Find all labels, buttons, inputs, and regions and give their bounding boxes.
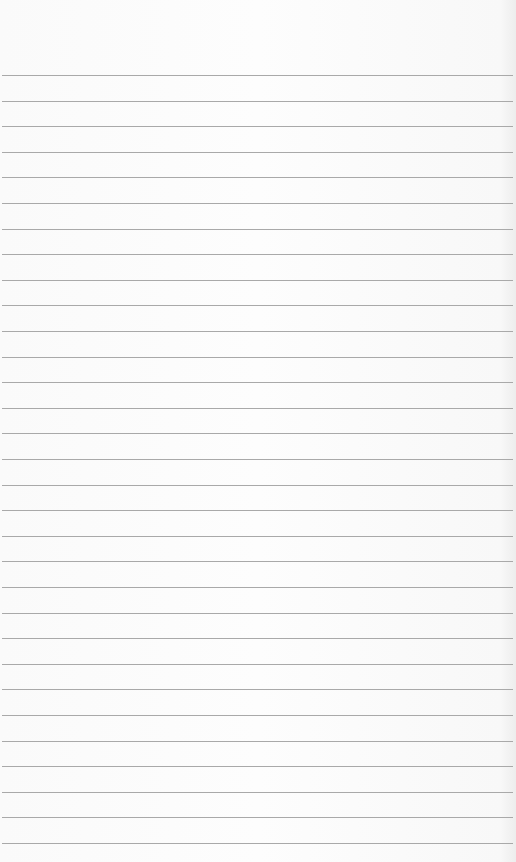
ruled-line (2, 843, 513, 844)
ruled-line (2, 587, 513, 588)
ruled-line (2, 613, 513, 614)
ruled-line (2, 177, 513, 178)
ruled-line (2, 459, 513, 460)
ruled-line (2, 203, 513, 204)
ruled-line (2, 75, 513, 76)
ruled-line (2, 331, 513, 332)
ruled-line (2, 101, 513, 102)
ruled-line (2, 766, 513, 767)
ruled-line (2, 305, 513, 306)
ruled-line (2, 408, 513, 409)
ruled-line (2, 485, 513, 486)
ruled-line (2, 664, 513, 665)
ruled-line (2, 254, 513, 255)
ruled-line (2, 152, 513, 153)
ruled-line (2, 715, 513, 716)
lined-paper-sheet (0, 0, 516, 862)
ruled-line (2, 817, 513, 818)
ruled-line (2, 638, 513, 639)
ruled-line (2, 561, 513, 562)
ruled-line (2, 433, 513, 434)
ruled-line (2, 510, 513, 511)
ruled-line (2, 229, 513, 230)
ruled-line (2, 382, 513, 383)
ruled-line (2, 741, 513, 742)
ruled-line (2, 126, 513, 127)
ruled-line (2, 357, 513, 358)
ruled-line (2, 280, 513, 281)
ruled-line (2, 792, 513, 793)
ruled-line (2, 689, 513, 690)
ruled-line (2, 536, 513, 537)
